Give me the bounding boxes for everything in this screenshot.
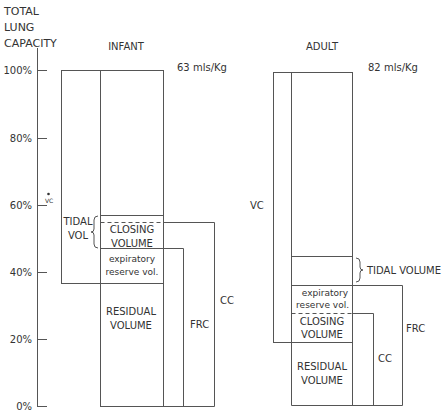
adult-erv-label: expiratory xyxy=(302,288,349,298)
adult-cc-label: CC xyxy=(378,353,392,364)
infant-tidal-label: VOL xyxy=(68,230,89,241)
tick-0: 0% xyxy=(16,401,32,412)
adult-closing-label: VOLUME xyxy=(301,329,343,340)
vc-dot-icon xyxy=(47,193,50,196)
infant-cc-label: CC xyxy=(220,295,234,306)
infant-vc-box xyxy=(62,71,164,284)
adult-rate: 82 mls/Kg xyxy=(368,62,418,73)
adult-tidal-label: TIDAL VOLUME xyxy=(366,265,441,276)
infant-title: INFANT xyxy=(108,41,145,52)
axis-title-line: CAPACITY xyxy=(4,37,57,50)
infant-frc-label: FRC xyxy=(190,319,209,330)
infant-tidal-label: TIDAL xyxy=(63,216,93,227)
tick-60: 60% xyxy=(10,200,32,211)
tick-100: 100% xyxy=(3,65,32,76)
vc-marker: VC xyxy=(45,197,53,204)
axis-title-line: LUNG xyxy=(4,21,34,34)
infant-residual-label: VOLUME xyxy=(110,320,152,331)
infant-closing-label: CLOSING xyxy=(110,224,155,235)
infant-erv-label: expiratory xyxy=(109,254,156,264)
tick-20: 20% xyxy=(10,334,32,345)
adult-residual-label: VOLUME xyxy=(301,375,343,386)
infant-rate: 63 mls/Kg xyxy=(177,62,227,73)
adult-title: ADULT xyxy=(306,41,339,52)
infant-residual-label: RESIDUAL xyxy=(106,306,156,317)
tick-80: 80% xyxy=(10,133,32,144)
adult-frc-label: FRC xyxy=(406,323,425,334)
adult-closing-label: CLOSING xyxy=(300,316,345,327)
tick-40: 40% xyxy=(10,267,32,278)
adult-residual-label: RESIDUAL xyxy=(297,361,347,372)
adult-tidal-brace xyxy=(356,258,363,282)
infant-erv-label: reserve vol. xyxy=(106,267,159,277)
infant-closing-label: VOLUME xyxy=(111,238,153,249)
axis-title-line: TOTAL xyxy=(3,5,40,18)
adult-vc-label: VC xyxy=(250,200,264,211)
adult-erv-label: reserve vol. xyxy=(296,300,349,310)
lung-volume-diagram: TOTAL LUNG CAPACITY 100% 80% 60% 40% 20%… xyxy=(0,0,447,418)
